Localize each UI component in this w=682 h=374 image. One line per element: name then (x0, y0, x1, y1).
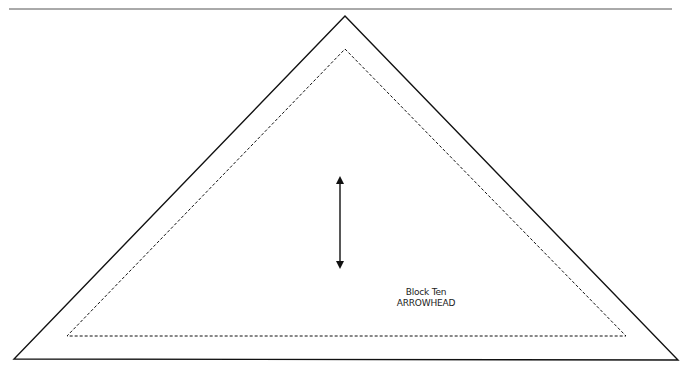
grain-arrow-icon (336, 176, 344, 269)
block-title: Block Ten (366, 287, 486, 298)
block-name: ARROWHEAD (366, 298, 486, 309)
arrowhead-template-diagram (0, 0, 682, 374)
outer-cutting-line (14, 16, 678, 360)
seam-allowance-dashed-line (67, 49, 626, 336)
block-label: Block Ten ARROWHEAD (366, 287, 486, 309)
